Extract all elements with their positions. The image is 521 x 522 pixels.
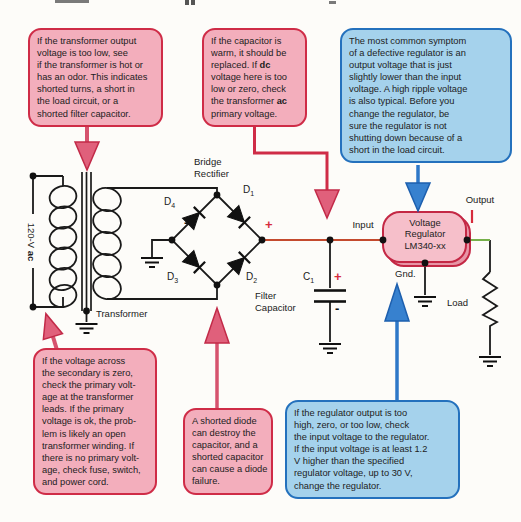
power-supply-troubleshooting-diagram: 120-V ac Transformer Bridge Rectifier D4… bbox=[0, 0, 521, 522]
callout-shorted-diode: A shorted diode can destroy the capacito… bbox=[183, 408, 273, 495]
ground-symbol bbox=[141, 258, 163, 267]
gnd-label: Gnd. bbox=[395, 268, 416, 280]
voltage-regulator-label: Voltage Regulator LM340-xx bbox=[383, 217, 467, 251]
output-label: Output bbox=[458, 194, 502, 206]
load-label: Load bbox=[447, 297, 468, 309]
source-voltage-label: 120-V ac bbox=[25, 220, 37, 264]
callout-capacitor-warm: If the capacitor is warm, it should be r… bbox=[202, 28, 307, 127]
red-arrow-to-bridge-node bbox=[205, 308, 229, 409]
blue-arrow-to-regulator bbox=[406, 165, 430, 211]
callout-regulator-output: If the regulator output is too high, zer… bbox=[285, 400, 460, 499]
diode-d3-label: D3 bbox=[167, 271, 178, 287]
callout-defective-regulator: The most common symptom of a defective r… bbox=[340, 28, 512, 163]
callout-transformer-output: If the transformer output voltage is too… bbox=[28, 28, 163, 127]
diode-d1-label: D1 bbox=[243, 184, 254, 200]
callout-secondary-zero: If the voltage across the secondary is z… bbox=[33, 348, 157, 495]
blue-arrow-to-regulator-gnd bbox=[385, 284, 409, 401]
red-arrow-to-capacitor-node bbox=[255, 126, 340, 218]
ground-symbol bbox=[479, 357, 501, 366]
filter-capacitor-symbol bbox=[314, 291, 346, 302]
input-label: Input bbox=[343, 219, 383, 231]
bridge-minus-sign: - bbox=[184, 218, 188, 228]
diode-d2-label: D2 bbox=[246, 271, 257, 287]
transformer-label: Transformer bbox=[96, 308, 147, 320]
transformer-core bbox=[82, 172, 91, 311]
capacitor-plus-sign: + bbox=[334, 272, 342, 282]
red-arrow-to-primary bbox=[36, 311, 66, 353]
capacitor-minus-sign: - bbox=[335, 304, 339, 314]
transformer-coils bbox=[47, 183, 123, 310]
ground-symbol bbox=[414, 297, 436, 306]
capacitor-ref-label: C1 bbox=[303, 271, 314, 287]
bridge-rectifier-label: Bridge Rectifier bbox=[194, 156, 229, 180]
filter-capacitor-label: Filter Capacitor bbox=[255, 290, 296, 314]
bridge-plus-sign: + bbox=[265, 220, 273, 230]
diode-d4-label: D4 bbox=[164, 196, 175, 212]
ground-symbol bbox=[76, 324, 98, 333]
ground-symbol bbox=[319, 344, 341, 353]
